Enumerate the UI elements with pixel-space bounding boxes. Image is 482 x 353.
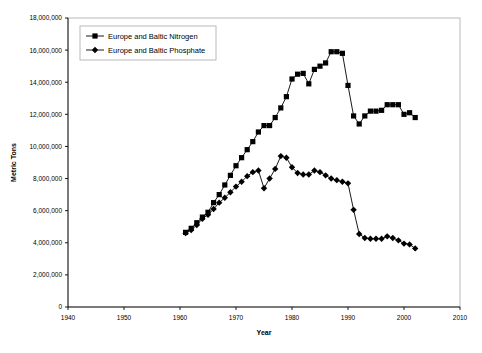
- data-point: [300, 171, 306, 177]
- data-point: [261, 185, 267, 191]
- data-point: [323, 60, 328, 65]
- data-point: [350, 207, 356, 213]
- y-tick-label: 16,000,000: [29, 47, 62, 54]
- data-point: [278, 105, 283, 110]
- series-1: [183, 49, 418, 235]
- data-point: [373, 109, 378, 114]
- data-point: [289, 76, 294, 81]
- data-point: [295, 72, 300, 77]
- data-point: [306, 81, 311, 86]
- chart-container: 02,000,0004,000,0006,000,0008,000,00010,…: [0, 0, 482, 353]
- data-point: [378, 236, 384, 242]
- y-tick-label: 4,000,000: [33, 239, 62, 246]
- data-point: [379, 108, 384, 113]
- data-point: [390, 102, 395, 107]
- data-point: [312, 67, 317, 72]
- series-line: [186, 52, 416, 233]
- data-point: [228, 173, 233, 178]
- x-tick-label: 1940: [61, 314, 76, 321]
- y-tick-label: 0: [58, 303, 62, 310]
- x-tick-label: 2000: [397, 314, 412, 321]
- data-point: [245, 147, 250, 152]
- y-axis-title: Metric Tons: [10, 143, 17, 182]
- legend-label: Europe and Baltic Phosphate: [108, 46, 205, 55]
- data-point: [322, 172, 328, 178]
- data-point: [412, 245, 418, 251]
- data-point: [385, 102, 390, 107]
- y-tick-label: 18,000,000: [29, 14, 62, 21]
- data-point: [384, 233, 390, 239]
- data-point: [233, 163, 238, 168]
- legend-label: Europe and Baltic Nitrogen: [108, 32, 198, 41]
- data-point: [329, 49, 334, 54]
- data-point: [273, 115, 278, 120]
- data-point: [401, 112, 406, 117]
- x-axis-title: Year: [257, 329, 272, 336]
- data-point: [362, 235, 368, 241]
- data-point: [395, 237, 401, 243]
- data-point: [345, 180, 351, 186]
- data-point: [356, 231, 362, 237]
- data-point: [261, 123, 266, 128]
- data-point: [368, 109, 373, 114]
- data-point: [351, 113, 356, 118]
- data-point: [401, 240, 407, 246]
- x-tick-label: 1970: [229, 314, 244, 321]
- series-2: [182, 153, 418, 252]
- y-tick-label: 14,000,000: [29, 79, 62, 86]
- data-point: [272, 166, 278, 172]
- data-point: [334, 49, 339, 54]
- y-tick-label: 12,000,000: [29, 111, 62, 118]
- data-point: [211, 200, 216, 205]
- plot-frame: [68, 18, 460, 307]
- y-tick-label: 6,000,000: [33, 207, 62, 214]
- data-point: [339, 179, 345, 185]
- data-point: [306, 171, 312, 177]
- x-tick-label: 1950: [117, 314, 132, 321]
- data-point: [255, 167, 261, 173]
- legend: Europe and Baltic NitrogenEurope and Bal…: [80, 26, 216, 60]
- x-tick-label: 1980: [285, 314, 300, 321]
- data-point: [284, 94, 289, 99]
- data-point: [340, 51, 345, 56]
- data-point: [396, 102, 401, 107]
- data-point: [357, 121, 362, 126]
- data-point: [222, 182, 227, 187]
- data-point: [217, 192, 222, 197]
- data-point: [266, 175, 272, 181]
- data-point: [413, 115, 418, 120]
- data-point: [345, 83, 350, 88]
- data-point: [278, 153, 284, 159]
- data-point: [256, 129, 261, 134]
- data-point: [362, 113, 367, 118]
- data-point: [406, 241, 412, 247]
- data-point: [334, 177, 340, 183]
- y-tick-label: 10,000,000: [29, 143, 62, 150]
- data-point: [301, 71, 306, 76]
- data-point: [317, 64, 322, 69]
- line-chart: 02,000,0004,000,0006,000,0008,000,00010,…: [0, 0, 482, 353]
- data-point: [267, 123, 272, 128]
- legend-marker-square: [92, 33, 97, 38]
- y-tick-label: 2,000,000: [33, 271, 62, 278]
- data-point: [250, 139, 255, 144]
- data-point: [311, 167, 317, 173]
- data-point: [250, 169, 256, 175]
- data-point: [283, 154, 289, 160]
- data-point: [407, 110, 412, 115]
- data-point: [390, 235, 396, 241]
- x-tick-label: 1960: [173, 314, 188, 321]
- data-point: [373, 236, 379, 242]
- data-point: [367, 236, 373, 242]
- x-tick-label: 1990: [341, 314, 356, 321]
- x-tick-label: 2010: [453, 314, 468, 321]
- data-point: [239, 155, 244, 160]
- y-tick-label: 8,000,000: [33, 175, 62, 182]
- data-point: [317, 169, 323, 175]
- data-point: [328, 175, 334, 181]
